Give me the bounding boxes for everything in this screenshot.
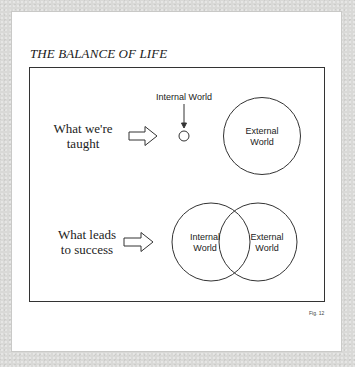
venn-external-label-line1: External xyxy=(240,232,294,243)
right-arrow-icon xyxy=(129,127,157,146)
venn-external-world-label: External World xyxy=(240,232,294,254)
right-arrow-icon xyxy=(124,233,153,252)
row1-left-label-line1: What we're xyxy=(48,121,118,136)
external-world-label-line1: External xyxy=(228,126,296,137)
internal-world-pointer-label: Internal World xyxy=(144,92,224,103)
venn-internal-label-line1: Internal xyxy=(178,232,232,243)
venn-external-label-line2: World xyxy=(240,243,294,254)
external-world-label: External World xyxy=(228,126,296,148)
external-world-label-line2: World xyxy=(228,137,296,148)
small-internal-world-circle xyxy=(179,131,189,141)
row1-left-label: What we're taught xyxy=(48,121,118,151)
diagram-graphics xyxy=(0,0,355,367)
venn-internal-world-label: Internal World xyxy=(178,232,232,254)
row2-left-label: What leads to success xyxy=(52,227,122,257)
down-arrow-icon xyxy=(182,104,187,128)
row1-left-label-line2: taught xyxy=(48,136,118,151)
venn-internal-label-line2: World xyxy=(178,243,232,254)
row2-left-label-line2: to success xyxy=(52,242,122,257)
row2-left-label-line1: What leads xyxy=(52,227,122,242)
figure-caption: Fig. 12 xyxy=(309,310,324,316)
